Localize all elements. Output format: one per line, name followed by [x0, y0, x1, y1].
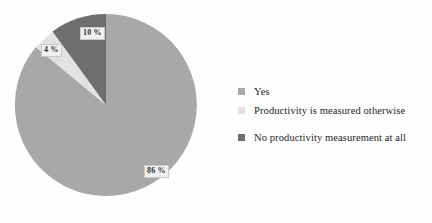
legend-item-otherwise[interactable]: Productivity is measured otherwise	[238, 101, 428, 120]
legend-swatch-no-measurement-icon	[238, 134, 245, 141]
legend-label-no-measurement: No productivity measurement at all	[254, 132, 406, 143]
legend-swatch-otherwise-icon	[238, 107, 245, 114]
pie-chart-svg	[0, 0, 216, 223]
legend-label-otherwise: Productivity is measured otherwise	[254, 105, 405, 116]
legend-label-yes: Yes	[254, 86, 270, 97]
pie-chart-plot-area: 10 % 4 % 86 %	[0, 0, 216, 223]
legend-item-yes[interactable]: Yes	[238, 82, 428, 101]
pie-label-yes: 86 %	[144, 165, 169, 178]
legend-swatch-yes-icon	[238, 88, 245, 95]
pie-label-otherwise: 4 %	[41, 44, 62, 57]
chart-legend: Yes Productivity is measured otherwise N…	[238, 82, 428, 147]
pie-label-no-measurement: 10 %	[80, 27, 105, 40]
legend-item-no-measurement[interactable]: No productivity measurement at all	[238, 128, 428, 147]
pie-chart-figure: 10 % 4 % 86 % Yes Productivity is measur…	[0, 0, 432, 223]
